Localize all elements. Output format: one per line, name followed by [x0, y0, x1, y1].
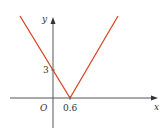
y-axis-arrow-icon — [51, 17, 56, 24]
x-tick-label: 0.6 — [63, 103, 78, 113]
x-axis-label: x — [154, 102, 159, 112]
function-curve — [20, 16, 118, 98]
x-axis-arrow-icon — [151, 96, 158, 101]
absolute-value-graph: y x O 0.6 3 — [0, 0, 168, 131]
y-tick-label: 3 — [43, 65, 49, 75]
origin-label: O — [40, 103, 48, 113]
y-axis-label: y — [41, 14, 48, 24]
x-axis — [10, 96, 158, 101]
